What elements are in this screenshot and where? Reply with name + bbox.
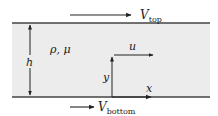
couette-flow-diagram: Vtop h ρ, μ y u x Vbottom (0, 0, 218, 116)
v-top-label: Vtop (140, 8, 162, 24)
fluid-properties-label: ρ, μ (49, 43, 71, 56)
v-bottom-label: Vbottom (98, 100, 136, 116)
x-axis-label: x (146, 82, 153, 95)
fluid-region (12, 23, 210, 97)
velocity-label: u (129, 40, 136, 53)
height-label: h (26, 56, 33, 69)
y-axis-label: y (102, 71, 110, 84)
